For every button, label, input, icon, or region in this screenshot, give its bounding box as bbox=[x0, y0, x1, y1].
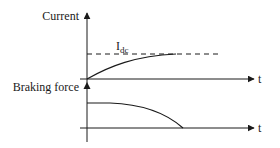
top-time-axis-label: t bbox=[258, 72, 262, 86]
current-axis-label: Current bbox=[42, 9, 79, 23]
timing-diagram: Current t Idc Braking force t bbox=[0, 0, 280, 148]
braking-force-axis-label: Braking force bbox=[13, 80, 79, 94]
idc-label: Idc bbox=[116, 39, 129, 55]
bottom-time-axis-label: t bbox=[258, 121, 262, 135]
braking-force-curve bbox=[87, 103, 183, 128]
current-curve bbox=[87, 54, 176, 79]
braking-force-axis-arrow-icon bbox=[84, 82, 91, 89]
